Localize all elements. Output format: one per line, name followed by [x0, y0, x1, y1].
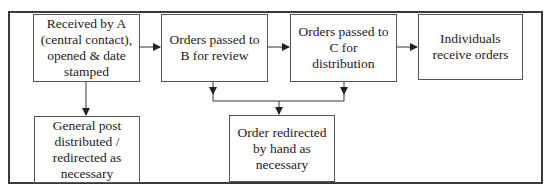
node-passed-to-c: Orders passed to C for distribution	[290, 14, 397, 82]
node-received-by-a: Received by A (central contact), opened …	[33, 14, 140, 82]
node-individuals-receive: Individuals receive orders	[418, 14, 523, 80]
node-order-redirected: Order redirected by hand as necessary	[229, 115, 335, 182]
node-passed-to-b: Orders passed to B for review	[161, 14, 268, 82]
node-general-post: General post distributed / redirected as…	[34, 116, 140, 183]
